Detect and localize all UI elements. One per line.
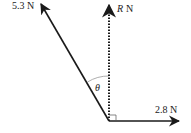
theta-label: θ <box>95 82 100 93</box>
resultant-label: RN <box>116 3 133 14</box>
force-diagram: 5.3 N RN θ 2.8 N <box>0 0 191 133</box>
resultant-unit: N <box>126 3 133 14</box>
resultant-symbol: R <box>116 3 123 14</box>
force-5-3-arrow <box>41 4 109 121</box>
force-2-8-label: 2.8 N <box>155 104 177 115</box>
right-angle-marker <box>109 115 116 121</box>
force-5-3-label: 5.3 N <box>12 0 34 11</box>
